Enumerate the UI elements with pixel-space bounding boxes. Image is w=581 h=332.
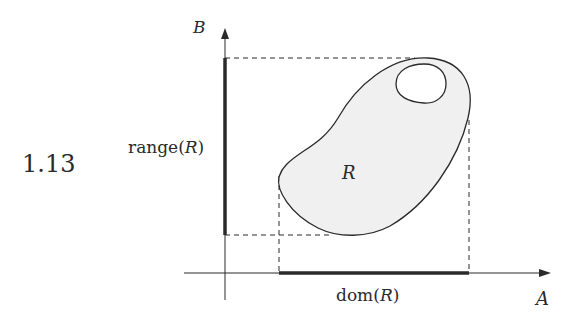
domain-label: dom(R) xyxy=(336,285,399,305)
exercise-number: 1.13 xyxy=(22,150,75,178)
range-label-suffix: ) xyxy=(198,137,205,157)
region-label: R xyxy=(342,162,356,183)
y-axis-arrow-icon xyxy=(221,28,229,39)
domain-label-prefix: dom( xyxy=(336,285,380,305)
range-label-var: R xyxy=(185,137,198,157)
y-axis-label: B xyxy=(193,17,206,37)
domain-label-var: R xyxy=(380,285,393,305)
range-label: range(R) xyxy=(128,137,204,157)
region-r xyxy=(279,58,471,235)
figure-canvas: 1.13 range(R) dom(R) B A R xyxy=(0,0,581,332)
relation-diagram xyxy=(0,0,581,332)
domain-label-suffix: ) xyxy=(393,285,400,305)
range-label-prefix: range( xyxy=(128,137,185,157)
x-axis-arrow-icon xyxy=(539,269,551,277)
x-axis-label: A xyxy=(536,288,549,309)
